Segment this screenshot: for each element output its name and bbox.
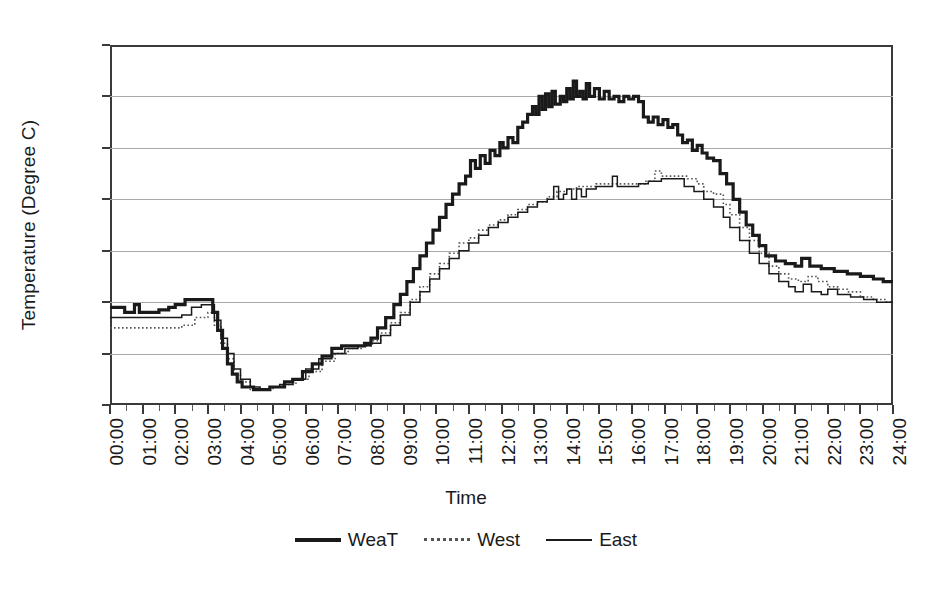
legend-item-east[interactable]: East: [546, 530, 637, 549]
legend-swatch-weat: [295, 538, 341, 542]
x-tick-mark: [207, 405, 209, 414]
y-axis-label: Temperature (Degree C): [14, 45, 44, 405]
data-series: [110, 45, 893, 405]
x-tick-mark: [892, 405, 894, 414]
x-tick-mark-minor: [583, 405, 584, 411]
x-tick-mark: [664, 405, 666, 414]
x-tick-label: 19:00: [726, 418, 748, 466]
x-tick-label: 23:00: [856, 418, 878, 466]
x-tick-label: 24:00: [889, 418, 911, 466]
x-tick-label: 22:00: [824, 418, 846, 466]
x-tick-mark: [272, 405, 274, 414]
x-tick-label: 10:00: [432, 418, 454, 466]
x-tick-mark: [501, 405, 503, 414]
x-tick-label: 00:00: [106, 418, 128, 466]
x-tick-label: 08:00: [367, 418, 389, 466]
x-tick-mark-minor: [224, 405, 225, 411]
y-tick-mark: [102, 147, 110, 149]
x-tick-mark-minor: [616, 405, 617, 411]
x-tick-label: 16:00: [628, 418, 650, 466]
chart-legend: WeaTWestEast: [0, 530, 932, 549]
x-tick-label: 21:00: [791, 418, 813, 466]
x-axis-label: Time: [0, 487, 932, 509]
x-tick-mark: [827, 405, 829, 414]
x-tick-mark-minor: [257, 405, 258, 411]
x-tick-label: 04:00: [237, 418, 259, 466]
x-tick-label: 20:00: [759, 418, 781, 466]
x-tick-label: 18:00: [693, 418, 715, 466]
x-tick-label: 03:00: [204, 418, 226, 466]
x-tick-mark: [240, 405, 242, 414]
x-tick-mark: [403, 405, 405, 414]
x-tick-label: 09:00: [400, 418, 422, 466]
x-tick-label: 13:00: [530, 418, 552, 466]
legend-swatch-east: [546, 539, 592, 541]
y-tick-mark: [102, 353, 110, 355]
x-tick-mark: [631, 405, 633, 414]
x-tick-mark: [859, 405, 861, 414]
x-tick-mark-minor: [779, 405, 780, 411]
x-tick-mark: [566, 405, 568, 414]
x-tick-mark-minor: [550, 405, 551, 411]
x-tick-mark: [109, 405, 111, 414]
x-tick-mark: [337, 405, 339, 414]
x-tick-mark-minor: [714, 405, 715, 411]
x-tick-mark: [174, 405, 176, 414]
plot-area: 23.025.027.029.031.033.035.037.0: [110, 45, 893, 405]
x-tick-mark: [435, 405, 437, 414]
x-tick-mark: [468, 405, 470, 414]
x-tick-mark-minor: [811, 405, 812, 411]
x-tick-label: 05:00: [269, 418, 291, 466]
y-tick-mark: [102, 301, 110, 303]
x-tick-label: 17:00: [661, 418, 683, 466]
x-tick-mark-minor: [355, 405, 356, 411]
x-tick-mark: [142, 405, 144, 414]
x-tick-mark-minor: [126, 405, 127, 411]
x-tick-mark: [533, 405, 535, 414]
x-tick-mark-minor: [681, 405, 682, 411]
y-tick-mark: [102, 250, 110, 252]
y-tick-mark: [102, 95, 110, 97]
x-tick-mark-minor: [387, 405, 388, 411]
x-tick-mark-minor: [192, 405, 193, 411]
x-tick-mark-minor: [648, 405, 649, 411]
legend-item-weat[interactable]: WeaT: [295, 530, 398, 549]
x-tick-mark-minor: [159, 405, 160, 411]
x-tick-mark: [729, 405, 731, 414]
x-tick-mark-minor: [420, 405, 421, 411]
x-tick-label: 07:00: [334, 418, 356, 466]
x-tick-mark-minor: [844, 405, 845, 411]
x-tick-label: 11:00: [465, 418, 487, 464]
x-tick-mark-minor: [518, 405, 519, 411]
x-tick-mark: [762, 405, 764, 414]
x-tick-mark-minor: [485, 405, 486, 411]
legend-label: East: [599, 530, 637, 549]
x-tick-label: 15:00: [595, 418, 617, 466]
legend-swatch-west: [424, 538, 470, 541]
x-tick-label: 02:00: [171, 418, 193, 466]
x-tick-label: 12:00: [498, 418, 520, 466]
x-tick-mark: [794, 405, 796, 414]
x-tick-mark-minor: [746, 405, 747, 411]
y-tick-mark: [102, 198, 110, 200]
x-tick-mark-minor: [322, 405, 323, 411]
x-tick-label: 14:00: [563, 418, 585, 466]
x-tick-label: 06:00: [302, 418, 324, 466]
legend-label: West: [477, 530, 520, 549]
legend-item-west[interactable]: West: [424, 530, 520, 549]
x-tick-mark: [598, 405, 600, 414]
x-tick-mark: [370, 405, 372, 414]
y-tick-mark: [102, 44, 110, 46]
x-tick-mark: [305, 405, 307, 414]
legend-label: WeaT: [348, 530, 398, 549]
x-tick-mark-minor: [289, 405, 290, 411]
x-tick-mark-minor: [877, 405, 878, 411]
x-tick-label: 01:00: [139, 418, 161, 466]
x-tick-mark: [696, 405, 698, 414]
x-tick-mark-minor: [453, 405, 454, 411]
chart-container: Temperature (Degree C) 23.025.027.029.03…: [0, 0, 932, 595]
